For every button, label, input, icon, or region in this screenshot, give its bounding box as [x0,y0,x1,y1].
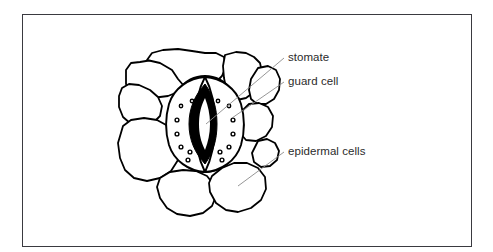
chloroplast-dot [175,132,179,136]
label-guard-cell: guard cell [288,75,338,88]
epidermal-cell [252,139,279,167]
chloroplast-dot [218,150,222,154]
label-stomate: stomate [288,51,329,64]
chloroplast-dot [220,158,224,162]
chloroplast-dot [179,104,182,107]
chloroplast-dot [227,145,231,149]
figure-canvas: stomate guard cell epidermal cells [0,0,493,252]
chloroplast-dot [175,118,179,122]
label-epidermal-cells: epidermal cells [288,145,365,158]
chloroplast-dot [179,145,183,149]
chloroplast-dot [188,150,192,154]
chloroplast-dot [231,132,235,136]
stomate-diagram [0,0,493,252]
chloroplast-dot [186,158,190,162]
chloroplast-dot [190,99,193,102]
chloroplast-dot [216,99,219,102]
guard-cell-pair [166,76,244,172]
epidermal-cell [157,170,216,216]
chloroplast-dot [231,118,235,122]
